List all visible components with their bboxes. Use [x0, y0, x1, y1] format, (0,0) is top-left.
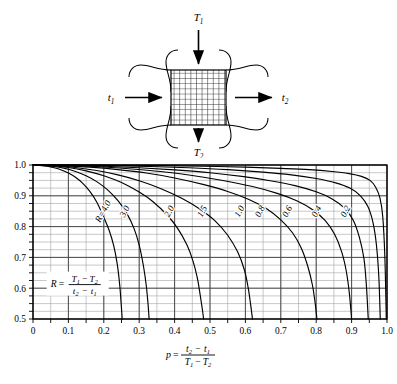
x-tick-label: 1.0 [381, 326, 393, 336]
x-axis-numerator-b: t1 [204, 343, 210, 355]
label-t2: t2 [282, 91, 289, 106]
annotation-equals: = [59, 278, 64, 289]
svg-text:0.6: 0.6 [280, 204, 294, 219]
y-tick-label: 0.5 [14, 314, 26, 324]
svg-text:1.5: 1.5 [195, 204, 209, 219]
curve-label-1.5: 1.51.5 [195, 204, 209, 219]
diagram-svg: T1 T2 t1 t2 [0, 0, 397, 158]
x-tick-label: 0.6 [240, 326, 252, 336]
x-axis-symbol: p [165, 349, 171, 360]
x-axis-numerator-minus: − [195, 343, 200, 354]
curve-label-0.6: 0.60.6 [280, 204, 294, 219]
y-tick-labels: 0.50.60.70.80.91.0 [14, 160, 26, 324]
x-tick-label: 0.8 [310, 326, 322, 336]
x-tick-label: 0.2 [98, 326, 110, 336]
lmtd-correction-chart: R=4.0R=4.03.03.02.02.01.51.51.01.00.80.8… [0, 155, 397, 384]
curve-label-0.8: 0.80.8 [253, 204, 267, 219]
y-tick-label: 0.9 [14, 191, 26, 201]
x-tick-label: 0.3 [133, 326, 145, 336]
y-tick-label: 0.6 [14, 284, 26, 294]
label-t1: t1 [108, 91, 115, 106]
x-axis-numerator-a: t2 [186, 343, 193, 355]
y-tick-label: 0.7 [14, 253, 26, 263]
y-tick-label: 1.0 [14, 160, 26, 170]
x-tick-labels: 00.10.20.30.40.50.60.70.80.91.0 [31, 326, 394, 336]
y-tick-label: 0.8 [14, 222, 26, 232]
x-axis-denominator-b: T2 [203, 356, 212, 368]
axis-ticks [29, 165, 387, 323]
heat-exchanger-diagram: T1 T2 t1 t2 [0, 0, 397, 158]
label-T1: T1 [194, 11, 204, 26]
x-tick-label: 0.4 [169, 326, 181, 336]
x-tick-label: 0.9 [346, 326, 358, 336]
r-definition-annotation: R=T1−T2t2−t1 [47, 272, 109, 297]
svg-text:1.0: 1.0 [232, 204, 246, 219]
x-tick-label: 0 [31, 326, 36, 336]
x-tick-label: 0.1 [63, 326, 75, 336]
annotation-denominator-minus: − [82, 286, 87, 296]
chart-svg: R=4.0R=4.03.03.02.02.01.51.51.01.00.80.8… [0, 155, 397, 384]
exchanger-core [171, 70, 226, 125]
x-tick-label: 0.5 [204, 326, 216, 336]
x-axis-denominator-a: T1 [185, 356, 194, 368]
annotation-symbol: R [50, 278, 57, 289]
x-axis-denominator-minus: − [195, 356, 200, 367]
x-axis-label: p=t2−t1T1−T2 [165, 343, 215, 368]
curve-label-4.0: R=4.0R=4.0 [93, 198, 113, 225]
curve-label-1.0: 1.01.0 [232, 204, 246, 219]
curve-label-group: R=4.0R=4.03.03.02.02.01.51.51.01.00.80.8… [93, 198, 353, 225]
x-axis-equals: = [173, 349, 179, 360]
x-tick-label: 0.7 [275, 326, 287, 336]
svg-text:0.8: 0.8 [253, 204, 267, 219]
annotation-numerator-minus: − [82, 274, 87, 284]
svg-text:R=4.0: R=4.0 [93, 198, 113, 225]
figure-root: T1 T2 t1 t2 R=4.0R=4.03.03.02.02.01.51.5… [0, 0, 397, 384]
